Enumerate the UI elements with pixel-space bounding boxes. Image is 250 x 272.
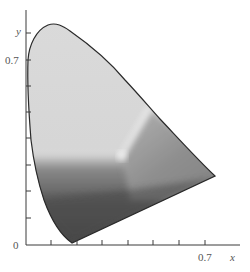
origin-label: 0: [13, 240, 19, 251]
y-axis-label: y: [16, 26, 21, 37]
x-tick-label-0-7: 0.7: [198, 252, 212, 263]
chromaticity-diagram: [0, 0, 250, 272]
x-axis-label: x: [230, 252, 235, 263]
white-point: [117, 151, 127, 161]
locus-fill: [20, 15, 240, 260]
y-tick-label-0-7: 0.7: [5, 55, 19, 66]
